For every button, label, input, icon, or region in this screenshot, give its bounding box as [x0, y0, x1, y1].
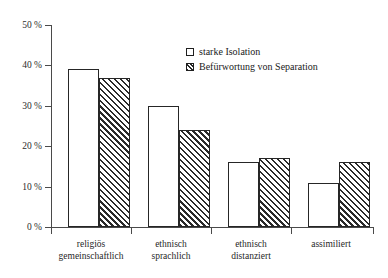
hatched-square-icon: [186, 63, 194, 71]
y-tick-label-50: 50 %: [2, 20, 42, 30]
y-tick-label-40: 40 %: [2, 60, 42, 70]
bar-group-religioes-gemeinschaftlich: [68, 25, 130, 227]
bar-starke-isolation-1: [68, 69, 99, 227]
bar-befuerwortung-separation-4: [339, 162, 370, 227]
bar-befuerwortung-separation-2: [179, 130, 210, 227]
y-tick-label-30: 30 %: [2, 101, 42, 111]
x-tick-mark-1: [131, 228, 132, 234]
chart-legend: starke Isolation Befürwortung von Separa…: [186, 44, 318, 74]
y-tick-label-20: 20 %: [2, 141, 42, 151]
y-tick-label-0: 0 %: [2, 222, 42, 232]
x-axis-line: [51, 227, 374, 228]
x-tick-mark-4: [373, 228, 374, 234]
category-label-assimiliert: assimiliert: [272, 238, 388, 250]
empty-square-icon: [186, 48, 194, 56]
x-tick-mark-0: [51, 228, 52, 234]
bar-starke-isolation-4: [308, 183, 339, 227]
y-tick-label-10: 10 %: [2, 182, 42, 192]
x-tick-mark-3: [291, 228, 292, 234]
bar-befuerwortung-separation-3: [259, 158, 290, 227]
category-label-line-1: assimiliert: [272, 238, 388, 250]
bar-befuerwortung-separation-1: [99, 78, 130, 228]
category-label-line-2: distanziert: [192, 250, 310, 262]
bar-chart: 50 % 40 % 30 % 20 % 10 % 0 %: [0, 0, 388, 278]
x-tick-mark-2: [211, 228, 212, 234]
legend-item-befuerwortung-separation: Befürwortung von Separation: [186, 59, 318, 74]
bar-starke-isolation-3: [228, 162, 259, 227]
legend-label-starke-isolation: starke Isolation: [199, 46, 260, 58]
legend-label-befuerwortung-separation: Befürwortung von Separation: [199, 61, 318, 73]
legend-item-starke-isolation: starke Isolation: [186, 44, 318, 59]
bar-starke-isolation-2: [148, 106, 179, 227]
